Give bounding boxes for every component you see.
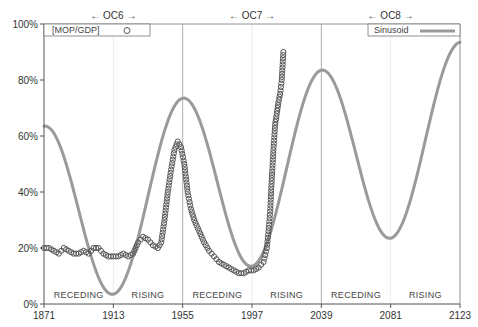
y-tick-label: 80% <box>18 75 38 86</box>
mop-gdp-series <box>41 49 286 275</box>
x-tick-label: 1913 <box>102 310 125 321</box>
y-tick-label: 100% <box>12 19 38 30</box>
y-tick-label: 40% <box>18 187 38 198</box>
phase-label: RISING <box>409 290 442 300</box>
data-point <box>281 49 286 54</box>
legend-mop-gdp: [MOP/GDP] <box>44 24 150 36</box>
cycle-label: ← OC7 → <box>229 10 275 21</box>
phase-label: RISING <box>270 290 303 300</box>
cycle-label: ← OC6 → <box>90 10 136 21</box>
y-tick-label: 0% <box>24 299 39 310</box>
legend-sinusoid-label: Sinusoid <box>374 25 409 35</box>
x-tick-label: 1955 <box>172 310 195 321</box>
legend-mop-gdp-label: [MOP/GDP] <box>52 25 100 35</box>
phase-label: RECEDING <box>54 290 104 300</box>
x-tick-label: 2123 <box>449 310 472 321</box>
x-tick-label: 2081 <box>380 310 403 321</box>
phase-label: RECEDING <box>331 290 381 300</box>
cycle-labels: ← OC6 →← OC7 →← OC8 → <box>90 10 413 21</box>
data-point <box>262 256 267 261</box>
y-tick-label: 20% <box>18 243 38 254</box>
y-tick-label: 60% <box>18 131 38 142</box>
legend-sinusoid: Sinusoid <box>368 24 460 36</box>
x-axis-ticks: 1871191319551997203920812123 <box>33 304 472 321</box>
x-tick-label: 2039 <box>310 310 333 321</box>
cycle-label: ← OC8 → <box>368 10 414 21</box>
x-tick-label: 1871 <box>33 310 56 321</box>
x-tick-label: 1997 <box>241 310 264 321</box>
chart-canvas: 0%20%40%60%80%100% 187119131955199720392… <box>0 0 478 327</box>
phase-label: RISING <box>132 290 165 300</box>
y-axis-ticks: 0%20%40%60%80%100% <box>12 19 44 310</box>
phase-label: RECEDING <box>192 290 242 300</box>
